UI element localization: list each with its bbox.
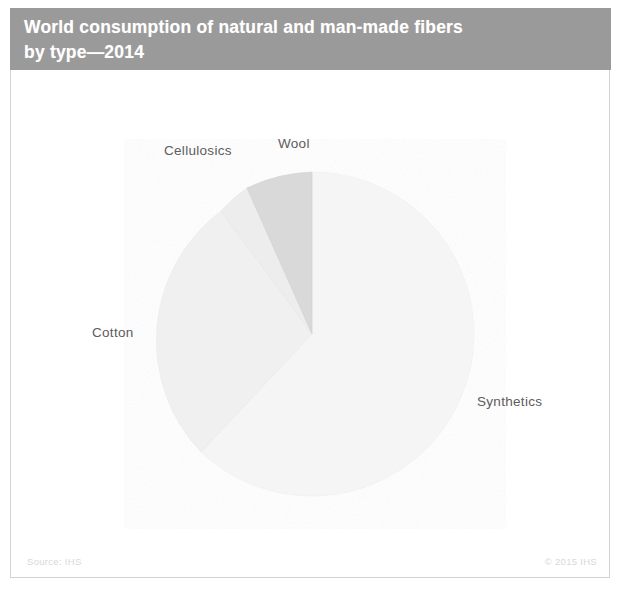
pie-chart-area: Cellulosics Wool Cotton Synthetics: [0, 0, 619, 595]
pie-label-cotton: Cotton: [92, 325, 134, 340]
figure-container: World consumption of natural and man-mad…: [0, 0, 619, 595]
pie-label-wool: Wool: [278, 136, 310, 151]
pie-label-cellulosics: Cellulosics: [164, 143, 232, 158]
pie-chart-svg: [0, 0, 619, 595]
pie-label-synthetics: Synthetics: [477, 394, 542, 409]
source-note: Source: IHS: [27, 556, 82, 567]
copyright-note: © 2015 IHS: [545, 556, 597, 567]
